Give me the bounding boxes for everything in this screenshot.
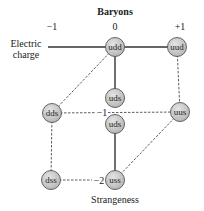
electric-charge-label-line1: Electric	[10, 38, 42, 49]
node-label: uds	[109, 119, 122, 129]
diagram-title: Baryons	[97, 6, 133, 17]
node-label: uss	[109, 175, 121, 185]
edges-group	[48, 47, 180, 180]
edge-dds-dss	[51, 113, 52, 180]
baryon-octet-diagram: Baryons −1 0 +1 Electric charge Strangen…	[0, 0, 204, 211]
node-uus: uus	[171, 103, 190, 122]
node-uds_top: uds	[106, 89, 125, 108]
electric-charge-label-line2: charge	[13, 49, 40, 60]
node-uds_bottom: uds	[106, 115, 125, 134]
node-uud: uud	[168, 38, 187, 57]
node-label: uds	[109, 93, 122, 103]
charge-tick-0: 0	[113, 21, 118, 32]
charge-tick-plus1: +1	[175, 21, 186, 32]
strangeness-label: Strangeness	[91, 194, 139, 205]
node-label: dss	[45, 175, 57, 185]
node-label: uud	[170, 42, 184, 52]
node-uss: uss	[106, 171, 125, 190]
node-udd: udd	[106, 38, 125, 57]
strangeness-tick-minus2: −2	[94, 175, 105, 186]
node-dss: dss	[42, 171, 61, 190]
node-label: dds	[46, 108, 59, 118]
strangeness-tick-minus1: −1	[97, 107, 108, 118]
edge-dds-uus	[52, 112, 180, 113]
node-label: udd	[108, 42, 122, 52]
charge-tick-minus1: −1	[47, 21, 58, 32]
node-dds: dds	[43, 104, 62, 123]
node-label: uus	[174, 107, 187, 117]
edge-udd-dds	[52, 47, 115, 113]
